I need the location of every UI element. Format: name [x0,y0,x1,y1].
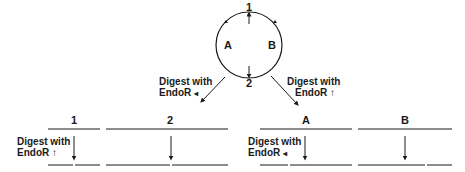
left-digest-line2: EndoR [159,87,191,98]
marker-right-icon [273,20,277,23]
region-a-label: A [224,40,232,51]
fragment-a-digest-line1: Digest with [248,136,301,147]
fragment-1-up-arrow-icon: ↑ [52,147,57,158]
region-b-label: B [268,40,276,51]
right-digest-line2: EndoR [295,87,327,98]
fragment-1-digest-line2: EndoR [17,147,49,158]
fragment-a-digest-label: Digest with EndoR ◂ [248,136,301,159]
right-up-arrow-icon: ↑ [330,87,335,98]
fragment-1-digest-line1: Digest with [17,136,70,147]
right-digest-label: Digest with EndoR ↑ [287,76,340,98]
left-triangle-icon: ◂ [194,89,198,98]
fragment-1-label: 1 [71,115,77,126]
site-1-label: 1 [246,2,252,13]
fragment-a-triangle-icon: ◂ [283,149,287,158]
left-digest-line1: Digest with [159,76,212,87]
fragment-a-digest-line2: EndoR [248,147,280,158]
fragment-2-label: 2 [167,115,173,126]
right-digest-line1: Digest with [287,76,340,87]
site-2-label: 2 [246,78,252,89]
left-digest-label: Digest with EndoR ◂ [159,76,212,99]
fragment-1-digest-label: Digest with EndoR ↑ [17,136,70,158]
fragment-a-label: A [302,115,310,126]
fragment-b-label: B [401,115,409,126]
